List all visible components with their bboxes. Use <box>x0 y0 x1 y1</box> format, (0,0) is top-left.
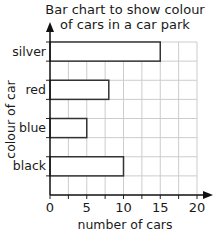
bar-red <box>50 80 109 99</box>
y-axis-arrow-icon <box>46 22 54 32</box>
x-tick-label: 20 <box>182 200 212 215</box>
category-label-silver: silver <box>12 44 46 59</box>
bar-silver <box>50 42 160 61</box>
category-label-red: red <box>26 82 47 97</box>
bar-black <box>50 157 124 176</box>
x-axis-arrow-icon <box>203 191 213 199</box>
bar-blue <box>50 119 87 138</box>
x-tick-label: 0 <box>35 200 65 215</box>
category-label-blue: blue <box>19 120 46 135</box>
y-axis-label: colour of car <box>3 70 18 170</box>
x-tick-label: 10 <box>109 200 139 215</box>
x-tick-label: 5 <box>72 200 102 215</box>
category-label-black: black <box>13 158 46 173</box>
x-axis-label: number of cars <box>50 217 200 232</box>
x-tick-label: 15 <box>145 200 175 215</box>
